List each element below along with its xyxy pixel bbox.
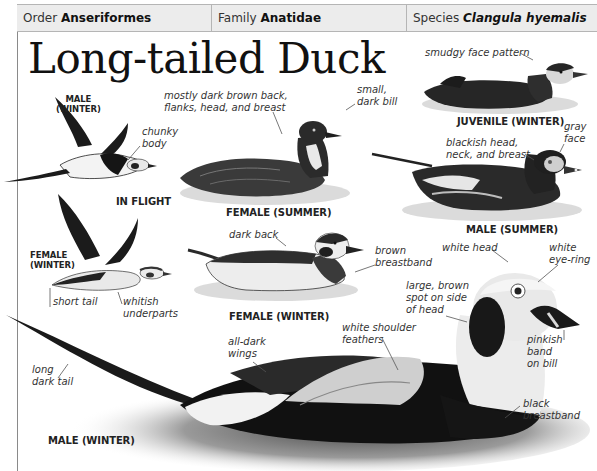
leader-male-winter <box>0 0 597 471</box>
male-winter-caption: MALE (WINTER) <box>48 435 135 446</box>
field-guide-page: Order Anseriformes Family Anatidae Speci… <box>0 0 597 471</box>
